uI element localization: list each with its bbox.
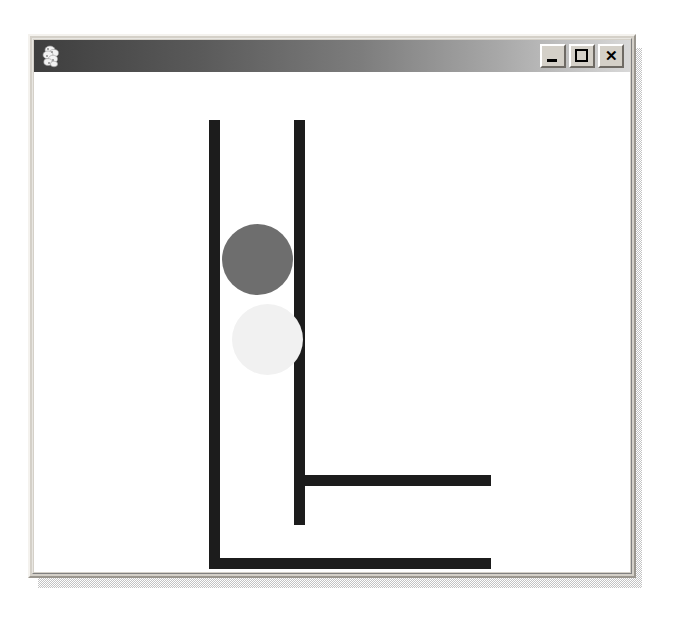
minimize-button[interactable] (540, 44, 566, 68)
application-icon[interactable] (39, 44, 65, 68)
close-icon: ✕ (600, 46, 622, 66)
close-button[interactable]: ✕ (598, 44, 624, 68)
title-bar[interactable]: ✕ (34, 40, 630, 72)
outer-track-horizontal (209, 558, 491, 569)
screen: ✕ (0, 0, 687, 619)
application-window: ✕ (28, 34, 636, 578)
window-controls: ✕ (540, 44, 624, 68)
dark-ball (222, 224, 293, 295)
inner-track-horizontal (294, 475, 491, 486)
outer-track-vertical (209, 120, 220, 569)
maximize-icon (575, 49, 588, 62)
minimize-icon (547, 59, 557, 62)
maximize-button[interactable] (569, 44, 595, 68)
drawing-canvas[interactable] (34, 72, 630, 572)
light-ball (232, 304, 303, 375)
